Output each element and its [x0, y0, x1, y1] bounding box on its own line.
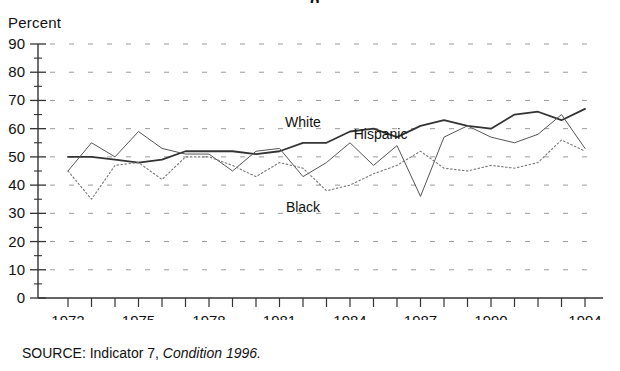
x-tick-label: 1975 [122, 312, 155, 320]
y-tick-label: 30 [8, 204, 25, 221]
y-tick-label: 80 [8, 63, 25, 80]
y-tick-label: 50 [8, 148, 25, 165]
x-tick-label: 1984 [333, 312, 366, 320]
series-labels-group: WhiteHispanicBlack [285, 114, 407, 215]
series-label-white: White [285, 114, 321, 130]
y-tick-label: 70 [8, 91, 25, 108]
x-tick-label: 1987 [404, 312, 437, 320]
figure-container: g Percent 0102030405060708090 1972197519… [0, 0, 620, 371]
series-group [68, 109, 585, 199]
x-tick-label: 1990 [474, 312, 507, 320]
series-line-black [68, 140, 585, 199]
y-tick-label: 20 [8, 233, 25, 250]
x-axis-group: 19721975197819811984198719901994 [38, 298, 603, 320]
y-tick-label: 90 [8, 35, 25, 52]
source-prefix: SOURCE: [22, 345, 86, 361]
series-label-black: Black [286, 199, 321, 215]
y-tick-label: 40 [8, 176, 25, 193]
gridlines-group [50, 44, 599, 270]
x-tick-label: 1981 [263, 312, 296, 320]
source-text: Indicator 7, [90, 345, 159, 361]
x-tick-label: 1994 [568, 312, 601, 320]
y-tick-label: 0 [17, 289, 25, 306]
series-line-hispanic [68, 115, 585, 197]
source-citation: Condition 1996. [163, 345, 261, 361]
y-tick-label: 10 [8, 261, 25, 278]
x-tick-label: 1972 [51, 312, 84, 320]
series-line-white [68, 109, 585, 163]
y-axis-group: 0102030405060708090 [8, 35, 46, 306]
line-chart-svg: 0102030405060708090 19721975197819811984… [0, 0, 620, 320]
series-label-hispanic: Hispanic [354, 126, 408, 142]
y-tick-label: 60 [8, 120, 25, 137]
plot-area: 0102030405060708090 19721975197819811984… [0, 0, 620, 320]
source-note: SOURCE: Indicator 7, Condition 1996. [22, 345, 261, 361]
x-tick-label: 1978 [192, 312, 225, 320]
